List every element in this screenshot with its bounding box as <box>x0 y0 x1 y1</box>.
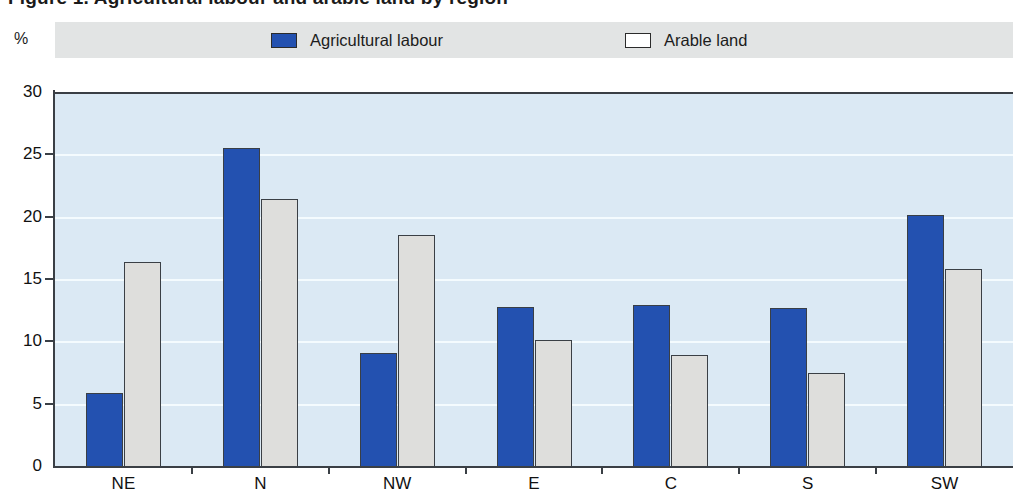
y-axis-tick <box>45 153 54 155</box>
legend-swatch-white-icon <box>625 33 651 48</box>
legend-label-arable-land: Arable land <box>664 31 747 50</box>
x-axis-label-s: S <box>802 474 813 494</box>
y-axis-tick-label: 10 <box>6 331 42 351</box>
bar-ne-arable-land <box>124 262 161 468</box>
gridline <box>55 217 1013 219</box>
y-axis-tick-label: 0 <box>6 456 42 476</box>
y-axis-tick <box>45 340 54 342</box>
bar-n-arable-land <box>261 199 298 468</box>
y-axis-tick <box>45 403 54 405</box>
bar-c-arable-land <box>671 355 708 468</box>
y-axis-tick-label: 30 <box>6 82 42 102</box>
x-axis-label-n: N <box>254 474 266 494</box>
page-title: Figure 1. Agricultural labour and arable… <box>8 0 508 9</box>
gridline <box>55 154 1013 156</box>
bar-nw-arable-land <box>398 235 435 468</box>
legend-item-agricultural-labour[interactable]: Agricultural labour <box>271 22 443 58</box>
bar-nw-agricultural-labour <box>360 353 397 468</box>
bar-s-arable-land <box>808 373 845 468</box>
x-axis-label-nw: NW <box>383 474 411 494</box>
y-axis-tick-label: 20 <box>6 207 42 227</box>
y-axis-tick-label: 15 <box>6 269 42 289</box>
x-axis-tick <box>875 466 877 474</box>
bar-ne-agricultural-labour <box>86 393 123 468</box>
y-axis-tick <box>45 216 54 218</box>
bar-c-agricultural-labour <box>633 305 670 468</box>
bar-s-agricultural-labour <box>770 308 807 468</box>
x-axis-label-e: E <box>528 474 539 494</box>
x-axis-line <box>53 466 1013 468</box>
bar-e-arable-land <box>535 340 572 468</box>
y-axis-tick-label: 5 <box>6 394 42 414</box>
legend-label-agricultural-labour: Agricultural labour <box>310 31 443 50</box>
y-axis-tick-label: 25 <box>6 144 42 164</box>
x-axis-tick <box>328 466 330 474</box>
x-axis-tick <box>601 466 603 474</box>
chart-legend: Agricultural labour Arable land <box>55 22 1013 58</box>
legend-swatch-blue-icon <box>271 33 297 48</box>
x-axis-label-ne: NE <box>112 474 136 494</box>
x-axis-label-sw: SW <box>931 474 958 494</box>
legend-item-arable-land[interactable]: Arable land <box>625 22 747 58</box>
bar-sw-agricultural-labour <box>907 215 944 468</box>
x-axis-tick <box>191 466 193 474</box>
y-axis-labels: 051015202530 <box>0 0 42 501</box>
x-axis-tick <box>738 466 740 474</box>
bar-sw-arable-land <box>945 269 982 468</box>
y-axis-tick <box>45 278 54 280</box>
gridline <box>55 279 1013 281</box>
bar-n-agricultural-labour <box>223 148 260 468</box>
x-axis-label-c: C <box>665 474 677 494</box>
plot-area <box>55 92 1013 468</box>
x-axis-tick <box>465 466 467 474</box>
bar-e-agricultural-labour <box>497 307 534 468</box>
chart-title-strip: Figure 1. Agricultural labour and arable… <box>0 0 1013 14</box>
